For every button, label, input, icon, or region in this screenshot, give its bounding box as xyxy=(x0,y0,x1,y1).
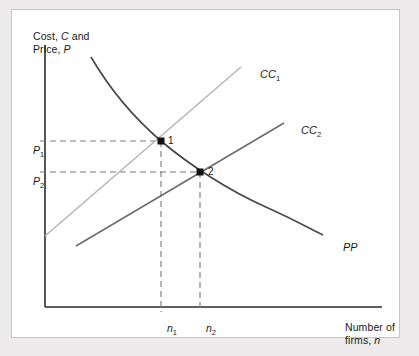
curve-cc2 xyxy=(76,123,284,246)
y-tick-label-p2: P2 xyxy=(33,175,44,190)
curve-pp xyxy=(91,57,323,235)
y-tick-p1-base: P xyxy=(33,144,40,156)
curve-label-cc1-sub: 1 xyxy=(276,74,280,83)
figure-panel: Cost, C and Price, P Number of firms, n … xyxy=(11,9,400,338)
y-tick-p2-sub: 2 xyxy=(40,181,44,190)
curve-cc1 xyxy=(45,67,241,236)
x-tick-label-n2: n2 xyxy=(206,322,216,337)
y-axis-caption: Cost, C and Price, P xyxy=(33,30,90,55)
equilibrium-point-2-marker xyxy=(197,169,204,176)
equilibrium-point-1-marker xyxy=(158,138,165,145)
equilibrium-point-1-label: 1 xyxy=(168,135,174,146)
x-axis-caption: Number of firms, n xyxy=(345,321,395,346)
economics-diagram-plot xyxy=(12,10,399,337)
x-axis-caption-prefix: firms, xyxy=(345,334,374,346)
y-axis-caption-prefix: Cost, xyxy=(33,30,61,42)
y-axis-caption-prefix2: Price, xyxy=(33,43,63,55)
curve-label-cc2: CC2 xyxy=(301,124,321,139)
y-axis-caption-suffix: and xyxy=(69,30,90,42)
y-axis-caption-var-c: C xyxy=(61,30,69,42)
x-tick-label-n1: n1 xyxy=(167,322,177,337)
y-tick-p2-base: P xyxy=(33,175,40,187)
x-tick-n2-sub: 2 xyxy=(212,328,216,337)
curve-label-cc1: CC1 xyxy=(260,68,280,83)
curve-label-pp: PP xyxy=(343,241,358,253)
x-axis-caption-var-n: n xyxy=(374,334,380,346)
x-axis-caption-line1: Number of xyxy=(345,321,395,333)
y-axis-caption-var-p: P xyxy=(63,43,70,55)
curve-label-cc2-sub: 2 xyxy=(317,130,321,139)
curve-label-cc1-base: CC xyxy=(260,68,276,80)
x-tick-n1-sub: 1 xyxy=(173,328,177,337)
y-tick-label-p1: P1 xyxy=(33,144,44,159)
equilibrium-point-2-label: 2 xyxy=(208,166,214,177)
curve-label-cc2-base: CC xyxy=(301,124,317,136)
y-tick-p1-sub: 1 xyxy=(40,150,44,159)
